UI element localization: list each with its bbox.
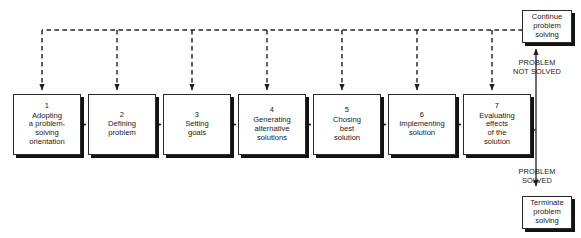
- stage-label: Generating alternative solutions: [251, 116, 293, 143]
- stage-box-5[interactable]: 5 Chosing best solution: [313, 94, 381, 155]
- stage-number: 3: [195, 111, 199, 120]
- stage-label: Setting goals: [183, 120, 211, 138]
- stage-box-3[interactable]: 3 Setting goals: [163, 94, 231, 155]
- stage-box-4[interactable]: 4 Generating alternative solutions: [238, 94, 306, 155]
- stage-label: Adopting a problem- solving orientation: [27, 112, 67, 148]
- outcome-box-continue[interactable]: Continue problem solving: [522, 10, 572, 43]
- outcome-label: Terminate problem solving: [528, 199, 565, 226]
- stage-box-7[interactable]: 7 Evaluating effects of the solution: [463, 94, 531, 155]
- stage-label: Evaluating effects of the solution: [477, 112, 516, 148]
- stage-label: Chosing best solution: [331, 116, 363, 143]
- stage-number: 2: [120, 111, 124, 120]
- stage-number: 7: [495, 102, 499, 111]
- stage-box-1[interactable]: 1 Adopting a problem- solving orientatio…: [13, 94, 81, 155]
- edge-label-problem-not-solved: PROBLEM NOT SOLVED: [497, 59, 577, 77]
- flowchart-diagram: 1 Adopting a problem- solving orientatio…: [0, 0, 581, 238]
- stage-number: 6: [420, 111, 424, 120]
- edge-label-problem-solved: PROBLEM SOLVED: [497, 168, 577, 186]
- stage-label: Defining problem: [106, 120, 138, 138]
- outcome-label: Continue problem solving: [530, 13, 564, 40]
- stage-box-2[interactable]: 2 Defining problem: [88, 94, 156, 155]
- stage-label: Implementing solution: [397, 120, 447, 138]
- stage-box-6[interactable]: 6 Implementing solution: [388, 94, 456, 155]
- stage-number: 5: [345, 106, 349, 115]
- stage-number: 4: [270, 106, 274, 115]
- stage-number: 1: [45, 102, 49, 111]
- outcome-box-terminate[interactable]: Terminate problem solving: [522, 196, 572, 229]
